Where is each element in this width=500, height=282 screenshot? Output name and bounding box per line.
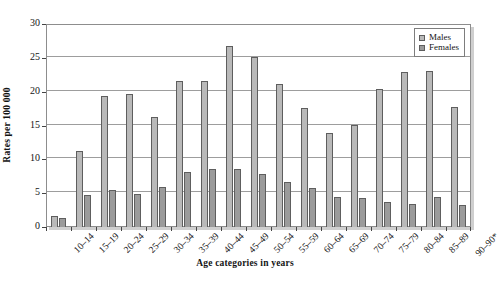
x-axis-category-label: 35–39	[196, 231, 220, 255]
y-axis-tick: 25	[0, 58, 46, 59]
x-axis-category-label: 45–49	[246, 231, 270, 255]
bar-males[interactable]	[326, 133, 334, 227]
bar-group	[46, 24, 71, 227]
y-axis-tick-label: 5	[35, 186, 40, 197]
x-axis-category-label: 40–44	[221, 231, 245, 255]
x-axis-category-label: 75–79	[396, 231, 420, 255]
y-axis-tick-label: 10	[30, 152, 40, 163]
bar-females[interactable]	[309, 188, 317, 227]
legend-swatch-females	[419, 45, 425, 51]
bar-females[interactable]	[434, 197, 442, 227]
bar-group	[346, 24, 371, 227]
y-axis-tick-label: 15	[30, 119, 40, 130]
bar-males[interactable]	[451, 107, 459, 227]
bar-males[interactable]	[376, 89, 384, 227]
y-axis-tick: 20	[0, 92, 46, 93]
legend-item[interactable]: Females	[419, 43, 459, 52]
bar-males[interactable]	[176, 81, 184, 227]
legend-label: Females	[429, 43, 459, 52]
bar-males[interactable]	[76, 151, 84, 227]
bar-females[interactable]	[209, 169, 217, 227]
legend-item[interactable]: Males	[419, 33, 459, 42]
y-axis-tick-label: 20	[30, 85, 40, 96]
bar-females[interactable]	[159, 187, 167, 227]
bar-females[interactable]	[59, 218, 67, 227]
bar-males[interactable]	[276, 84, 284, 227]
bar-males[interactable]	[251, 57, 259, 227]
legend-swatch-males	[419, 35, 425, 41]
bar-females[interactable]	[109, 190, 117, 227]
bar-group	[196, 24, 221, 227]
x-axis-category-label: 25–29	[146, 231, 170, 255]
bar-group	[246, 24, 271, 227]
y-axis-tick: 30	[0, 24, 46, 25]
bar-males[interactable]	[401, 72, 409, 227]
y-axis-tick: 5	[0, 193, 46, 194]
bar-males[interactable]	[201, 81, 209, 227]
x-axis-category-label: 70–74	[371, 231, 395, 255]
bar-group	[96, 24, 121, 227]
x-axis-labels: 10–1415–1920–2425–2930–3435–3940–4445–49…	[46, 231, 471, 277]
y-axis-tick-label: 30	[30, 17, 40, 28]
x-axis-category-label: 80–84	[421, 231, 445, 255]
chart-legend: MalesFemales	[414, 28, 465, 57]
x-axis-category-label: 55–59	[296, 231, 320, 255]
y-axis-tick: 15	[0, 126, 46, 127]
bar-females[interactable]	[334, 197, 342, 227]
y-axis-ticks: 051015202530	[0, 24, 46, 227]
y-axis-tick: 0	[0, 227, 46, 228]
x-axis-category-label: 15–19	[96, 231, 120, 255]
x-axis-category-label: 20–24	[121, 231, 145, 255]
bar-females[interactable]	[84, 195, 92, 227]
bar-females[interactable]	[409, 204, 417, 227]
bar-males[interactable]	[301, 108, 309, 227]
bar-group	[221, 24, 246, 227]
bar-males[interactable]	[426, 71, 434, 227]
x-axis-category-label: 50–54	[271, 231, 295, 255]
bar-males[interactable]	[226, 46, 234, 227]
bar-group	[171, 24, 196, 227]
y-axis-tick-label: 25	[30, 51, 40, 62]
y-axis-tick-label: 0	[35, 220, 40, 231]
x-axis-category-label: 85–89	[446, 231, 470, 255]
x-axis-category-label: 90–90*	[473, 231, 500, 258]
x-axis-category-label: 30–34	[171, 231, 195, 255]
bar-females[interactable]	[259, 174, 267, 227]
bar-males[interactable]	[351, 125, 359, 227]
y-axis-tick: 10	[0, 159, 46, 160]
bar-group	[271, 24, 296, 227]
bar-females[interactable]	[184, 172, 192, 227]
bar-females[interactable]	[284, 182, 292, 227]
bar-group	[146, 24, 171, 227]
bars-layer	[46, 24, 471, 227]
bar-group	[371, 24, 396, 227]
bar-males[interactable]	[51, 216, 59, 228]
bar-males[interactable]	[101, 96, 109, 227]
bar-males[interactable]	[126, 94, 134, 227]
bar-group	[321, 24, 346, 227]
bar-females[interactable]	[234, 169, 242, 227]
bar-group	[121, 24, 146, 227]
bar-males[interactable]	[151, 117, 159, 227]
x-axis-category-label: 60–64	[321, 231, 345, 255]
bar-females[interactable]	[359, 198, 367, 227]
bar-females[interactable]	[134, 194, 142, 227]
bar-group	[296, 24, 321, 227]
x-axis-category-label: 65–69	[346, 231, 370, 255]
bar-group	[71, 24, 96, 227]
x-axis-category-label: 10–14	[71, 231, 95, 255]
bar-females[interactable]	[384, 202, 392, 227]
bar-females[interactable]	[459, 205, 467, 227]
legend-label: Males	[429, 33, 451, 42]
